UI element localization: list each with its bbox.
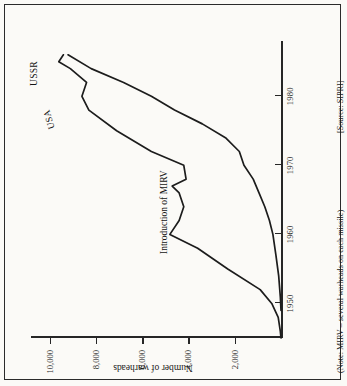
rotated-chart-wrapper: 1950196019701980 2,0004,0006,0008,00010,… xyxy=(13,12,333,372)
plot-area: 1950196019701980 2,0004,0006,0008,00010,… xyxy=(13,12,333,372)
page-frame: 1950196019701980 2,0004,0006,0008,00010,… xyxy=(4,4,341,380)
line-ussr xyxy=(68,55,281,311)
mirv-annotation: Introduction of MIRV xyxy=(159,170,169,254)
series-label-ussr: USSR xyxy=(29,61,39,86)
series-lines xyxy=(13,12,333,372)
chart-page: 1950196019701980 2,0004,0006,0008,00010,… xyxy=(0,0,347,386)
note-mirv: (Note: MIRV – several warheads on each m… xyxy=(336,210,345,373)
line-usa xyxy=(58,55,280,338)
note-source: [Source: SIPRI] xyxy=(336,80,345,133)
